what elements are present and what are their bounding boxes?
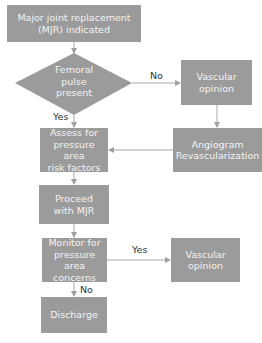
node-proceed: Proceed with MJR <box>39 185 109 224</box>
node-femoral-pulse-text: Femoral pulse present <box>34 64 114 99</box>
node-discharge-text: Discharge <box>50 309 98 321</box>
edge-label-monitor-no: No <box>80 284 93 295</box>
node-discharge: Discharge <box>41 297 107 333</box>
edge-label-pulse-no: No <box>150 70 163 81</box>
node-angio-text: Angiogram Revascularization <box>176 139 260 162</box>
edge-label-monitor-yes: Yes <box>132 244 147 255</box>
node-monitor: Monitor for pressure area concerns <box>42 238 107 282</box>
node-assess-text: Assess for pressure area risk factors <box>42 127 106 173</box>
node-vasc2-text: Vascular opinion <box>185 249 225 272</box>
node-vascular-opinion-top: Vascular opinion <box>181 60 252 105</box>
node-proceed-text: Proceed with MJR <box>54 193 95 216</box>
edge-label-pulse-yes: Yes <box>53 111 68 122</box>
flowchart: Major joint replacement (MJR) indicated … <box>0 0 262 343</box>
node-mjr-text: Major joint replacement (MJR) indicated <box>17 12 130 35</box>
node-mjr-indicated: Major joint replacement (MJR) indicated <box>7 5 141 42</box>
node-assess: Assess for pressure area risk factors <box>40 128 108 172</box>
node-monitor-text: Monitor for pressure area concerns <box>44 237 105 283</box>
node-vasc1-text: Vascular opinion <box>196 71 236 94</box>
node-vascular-opinion-bottom: Vascular opinion <box>171 238 240 282</box>
node-angiogram: Angiogram Revascularization <box>173 128 262 172</box>
